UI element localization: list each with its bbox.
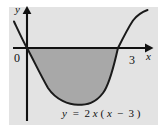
- equation-coefficient: 2: [85, 107, 91, 119]
- equation-equals: =: [73, 107, 79, 119]
- y-axis-label: y: [14, 3, 20, 15]
- y-axis-arrow-icon: [23, 6, 32, 14]
- equation-open-paren: (: [101, 107, 105, 120]
- equation-label: y = 2 x ( x − 3 ): [61, 107, 141, 120]
- x-axis-label: x: [145, 50, 151, 62]
- equation-close-paren: ): [137, 107, 141, 120]
- equation-x-first: x: [92, 107, 98, 119]
- equation-x-second: x: [106, 107, 112, 119]
- origin-label: 0: [14, 51, 20, 65]
- equation-minus: −: [117, 107, 123, 119]
- equation-y: y: [61, 107, 67, 119]
- x-intercept-label: 3: [129, 53, 135, 67]
- parabola-plot: y x 0 3 y = 2 x ( x − 3 ): [0, 0, 167, 135]
- equation-three: 3: [129, 107, 135, 119]
- figure-container: y x 0 3 y = 2 x ( x − 3 ): [0, 0, 167, 135]
